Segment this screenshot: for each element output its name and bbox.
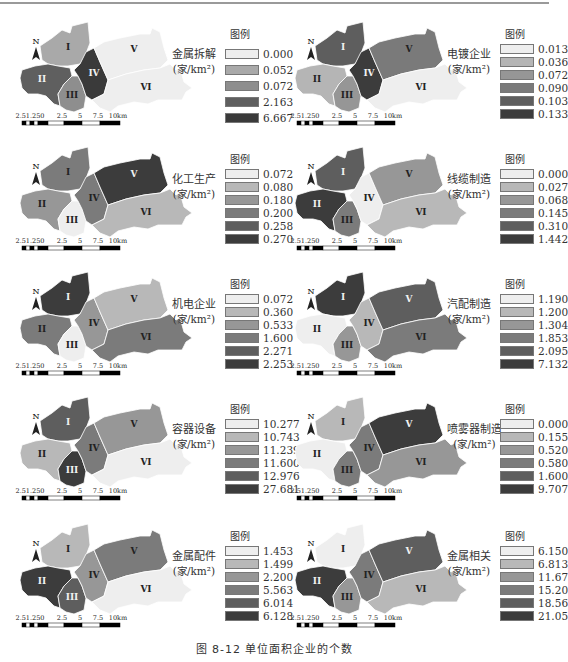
north-arrow-icon bbox=[307, 297, 315, 310]
region-label: IV bbox=[88, 193, 100, 203]
legend-swatch bbox=[500, 96, 534, 106]
map-unit: (家/km²) bbox=[447, 187, 491, 201]
legend-heading: 图例 bbox=[230, 151, 250, 166]
scale-bar-segment bbox=[38, 121, 48, 125]
region-label: III bbox=[66, 592, 79, 602]
legend-item: 0.103 bbox=[500, 94, 568, 107]
scale-bar-segment bbox=[375, 623, 395, 627]
legend-swatch bbox=[225, 65, 259, 75]
legend-swatch bbox=[225, 320, 259, 330]
legend-value: 0.072 bbox=[538, 69, 568, 81]
scale-bar-segment bbox=[30, 121, 34, 125]
scale-bar-segment bbox=[309, 623, 313, 627]
legend-value: 0.013 bbox=[538, 43, 568, 55]
scale-bar-segment bbox=[82, 371, 100, 375]
legend-item: 0.036 bbox=[500, 55, 568, 68]
scale-label: 2.5 bbox=[332, 112, 342, 120]
scale-bar-segment bbox=[64, 246, 82, 250]
scale-bar-segment bbox=[30, 246, 34, 250]
legend: 0.0130.0360.0720.0900.1030.133 bbox=[500, 42, 568, 120]
region-label: VI bbox=[414, 584, 426, 594]
choropleth-map: IIIIIIIVVVIN2.51.2502.557.510km bbox=[0, 510, 200, 632]
region-label: IV bbox=[363, 443, 375, 453]
scale-bar-segment bbox=[301, 496, 305, 500]
map-panel: IIIIIIIVVVIN2.51.2502.557.510km金属拆解(家/km… bbox=[0, 8, 272, 130]
region-label: IV bbox=[363, 318, 375, 328]
scale-label: 7.5 bbox=[93, 112, 103, 120]
scale-label: 2.5 bbox=[332, 614, 342, 622]
legend-item: 2.095 bbox=[500, 344, 568, 357]
choropleth-map: IIIIIIIVVVIN2.51.2502.557.510km bbox=[0, 383, 200, 505]
region-label: I bbox=[341, 544, 345, 554]
legend-swatch bbox=[225, 445, 259, 455]
legend-item: 18.56 bbox=[500, 596, 568, 609]
legend-swatch bbox=[225, 458, 259, 468]
figure-caption: 图 8-12 单位面积企业的个数 bbox=[0, 640, 549, 656]
legend-swatch bbox=[225, 484, 259, 494]
scale-bar-segment bbox=[309, 371, 313, 375]
scale-bar-segment bbox=[297, 496, 301, 500]
region-label: V bbox=[405, 546, 414, 556]
legend-value: 6.813 bbox=[538, 558, 568, 570]
scale-label: 10km bbox=[384, 362, 402, 370]
map-title: 汽配制造(家/km²) bbox=[447, 298, 491, 326]
scale-bar-segment bbox=[357, 246, 375, 250]
legend-value: 21.05 bbox=[538, 610, 568, 622]
legend-swatch bbox=[225, 585, 259, 595]
map-title: 喷雾器制造(家/km²) bbox=[447, 423, 502, 451]
north-arrow-icon bbox=[307, 422, 315, 435]
north-label: N bbox=[308, 162, 315, 171]
region-label: II bbox=[313, 199, 321, 209]
legend-item: 1.200 bbox=[500, 305, 568, 318]
legend-swatch bbox=[225, 346, 259, 356]
legend-value: 0.580 bbox=[538, 457, 568, 469]
legend-swatch bbox=[225, 195, 259, 205]
scale-bar-segment bbox=[26, 496, 30, 500]
legend-swatch bbox=[500, 432, 534, 442]
scale-bar-segment bbox=[309, 121, 313, 125]
legend-item: 1.442 bbox=[500, 232, 568, 245]
legend-swatch bbox=[500, 346, 534, 356]
scale-label: 2.51.250 bbox=[291, 487, 320, 495]
scale-label: 7.5 bbox=[93, 614, 103, 622]
scale-label: 7.5 bbox=[368, 112, 378, 120]
legend-value: 7.132 bbox=[538, 358, 568, 370]
region-label: IV bbox=[363, 68, 375, 78]
region-label: III bbox=[66, 90, 79, 100]
legend-value: 1.190 bbox=[538, 293, 568, 305]
legend-item: 0.580 bbox=[500, 456, 568, 469]
scale-bar-segment bbox=[48, 371, 64, 375]
legend-swatch bbox=[500, 484, 534, 494]
scale-label: 10km bbox=[109, 112, 127, 120]
scale-bar-segment bbox=[305, 121, 309, 125]
legend-swatch bbox=[225, 471, 259, 481]
region-label: III bbox=[66, 340, 79, 350]
scale-bar-segment bbox=[34, 623, 38, 627]
region-label: III bbox=[66, 465, 79, 475]
legend-value: 1.600 bbox=[538, 470, 568, 482]
region-label: II bbox=[313, 324, 321, 334]
scale-bar-segment bbox=[323, 246, 339, 250]
region-label: IV bbox=[363, 570, 375, 580]
scale-bar-segment bbox=[301, 623, 305, 627]
legend-item: 1.853 bbox=[500, 331, 568, 344]
map-title-text: 金属拆解 bbox=[172, 48, 216, 62]
scale-bar-segment bbox=[339, 623, 357, 627]
scale-bar-segment bbox=[305, 371, 309, 375]
legend-item: 15.20 bbox=[500, 583, 568, 596]
scale-bar-segment bbox=[30, 623, 34, 627]
scale-bar-segment bbox=[309, 496, 313, 500]
scale-bar-segment bbox=[64, 496, 82, 500]
map-unit: (家/km²) bbox=[172, 187, 216, 201]
region-label: I bbox=[341, 42, 345, 52]
map-panel: IIIIIIIVVVIN2.51.2502.557.510km金属相关(家/km… bbox=[275, 510, 547, 632]
scale-bar-segment bbox=[26, 623, 30, 627]
scale-bar-segment bbox=[357, 623, 375, 627]
legend-value: 0.155 bbox=[538, 431, 568, 443]
legend-value: 0.090 bbox=[538, 82, 568, 94]
legend-swatch bbox=[500, 598, 534, 608]
scale-bar-segment bbox=[64, 623, 82, 627]
scale-bar-segment bbox=[375, 371, 395, 375]
legend-item: 7.132 bbox=[500, 357, 568, 370]
legend-swatch bbox=[500, 294, 534, 304]
